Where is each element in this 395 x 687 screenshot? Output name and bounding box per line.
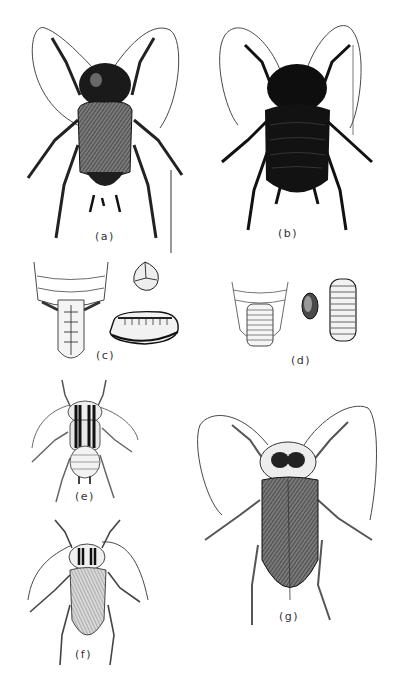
figure-b-cockroach <box>220 26 372 230</box>
illustration-plate: (a) (b) (c) (d) (e) (f) (g) <box>0 0 395 687</box>
figure-d-ootheca <box>232 279 356 346</box>
figure-label-d: (d) <box>291 354 311 367</box>
figure-label-c: (c) <box>96 349 115 362</box>
figure-label-b: (b) <box>278 227 298 240</box>
figure-g-cockroach <box>198 406 377 625</box>
plate-drawings <box>0 0 395 687</box>
figure-label-e: (e) <box>75 490 95 503</box>
figure-label-a: (a) <box>95 230 115 243</box>
figure-label-f: (f) <box>75 648 92 661</box>
figure-a-cockroach <box>28 27 182 238</box>
figure-c-ootheca <box>34 262 178 358</box>
figure-e-nymph <box>32 380 138 502</box>
figure-f-cockroach <box>28 520 148 665</box>
figure-label-g: (g) <box>279 610 299 623</box>
